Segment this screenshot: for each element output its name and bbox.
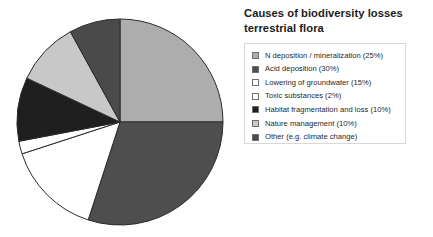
legend-item-label: N deposition / mineralization (25%) — [265, 52, 383, 60]
legend-swatch-icon — [252, 120, 259, 127]
legend-item-label: Other (e.g. climate change) — [265, 133, 357, 141]
legend-item-label: Lowering of groundwater (15%) — [265, 79, 371, 87]
pie-chart-plot — [14, 16, 226, 228]
legend-swatch-icon — [252, 79, 259, 86]
legend-swatch-icon — [252, 106, 259, 113]
pie-slice[interactable] — [120, 19, 223, 122]
legend-item[interactable]: Toxic substances (2%) — [252, 90, 399, 103]
legend-item[interactable]: Acid deposition (30%) — [252, 63, 399, 76]
legend-box: N deposition / mineralization (25%)Acid … — [244, 43, 406, 144]
legend-item[interactable]: Lowering of groundwater (15%) — [252, 76, 399, 89]
legend-swatch-icon — [252, 134, 259, 141]
legend-swatch-icon — [252, 66, 259, 73]
pie-slice-group — [17, 19, 223, 225]
legend-panel: Causes of biodiversity losses terrestria… — [236, 6, 428, 151]
legend-swatch-icon — [252, 52, 259, 59]
legend-item-label: Nature management (10%) — [265, 120, 357, 128]
legend-item-label: Habitat fragmentation and loss (10%) — [265, 106, 391, 114]
legend-item[interactable]: N deposition / mineralization (25%) — [252, 49, 399, 62]
legend-item[interactable]: Nature management (10%) — [252, 117, 399, 130]
chart-title: Causes of biodiversity losses terrestria… — [244, 6, 426, 36]
legend-item[interactable]: Habitat fragmentation and loss (10%) — [252, 103, 399, 116]
legend-item[interactable]: Other (e.g. climate change) — [252, 131, 399, 144]
legend-swatch-icon — [252, 93, 259, 100]
chart-title-line-2: terrestrial flora — [244, 21, 426, 36]
legend-item-label: Acid deposition (30%) — [265, 65, 339, 73]
pie-chart-svg — [14, 16, 226, 228]
chart-title-line-1: Causes of biodiversity losses — [244, 6, 426, 21]
pie-chart-figure: Causes of biodiversity losses terrestria… — [0, 0, 433, 237]
legend-item-label: Toxic substances (2%) — [265, 92, 341, 100]
